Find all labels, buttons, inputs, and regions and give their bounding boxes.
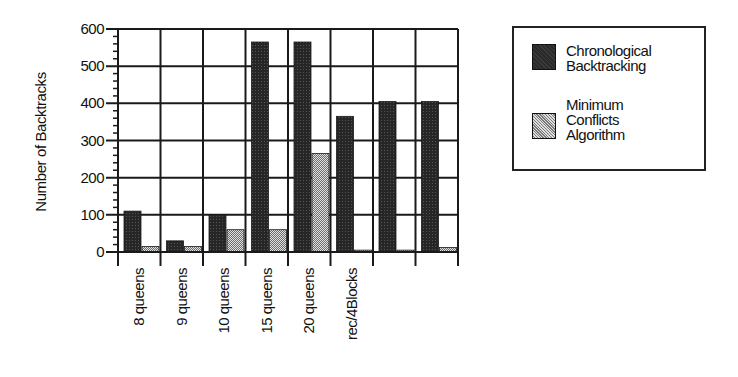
y-axis-label: Number of Backtracks: [32, 72, 49, 212]
y-tick-label: 500: [80, 57, 104, 74]
x-axis-tick-labels: 8 queens9 queens10 queens15 queens20 que…: [130, 268, 360, 340]
bars: [124, 42, 457, 252]
legend: Chronological Backtracking Minimum Confl…: [512, 26, 706, 171]
legend-item-chronological-backtracking: [532, 44, 556, 70]
legend-item-minimum-conflicts: [532, 113, 556, 139]
y-tick-label: 300: [80, 132, 104, 149]
bar-chronological-backtracking: [209, 215, 226, 252]
x-tick-label: 20 queens: [300, 268, 317, 334]
bar-chronological-backtracking: [167, 241, 184, 252]
y-tick-label: 200: [80, 169, 104, 186]
y-tick-label: 0: [96, 243, 104, 260]
bar-minimum-conflicts: [227, 230, 244, 252]
x-tick-label: 10 queens: [215, 268, 232, 334]
bar-minimum-conflicts: [312, 154, 329, 252]
bar-chronological-backtracking: [422, 101, 439, 252]
y-axis-tick-labels: 0100200300400500600: [80, 20, 104, 260]
bar-chronological-backtracking: [124, 211, 141, 252]
x-tick-label: 15 queens: [258, 268, 275, 334]
bar-chronological-backtracking: [379, 101, 396, 252]
bar-chronological-backtracking: [337, 116, 354, 252]
legend-label: Chronological Backtracking: [566, 43, 696, 73]
bar-chronological-backtracking: [294, 42, 311, 252]
legend-label: Minimum Conflicts Algorithm: [566, 97, 696, 142]
legend-swatch-dark: [532, 44, 556, 70]
x-tick-label: 8 queens: [130, 268, 147, 326]
bar-minimum-conflicts: [270, 230, 287, 252]
bar-chronological-backtracking: [252, 42, 269, 252]
legend-swatch-light: [532, 113, 556, 139]
y-tick-label: 600: [80, 20, 104, 37]
x-tick-label: rec/4Blocks: [343, 268, 360, 340]
x-tick-label: 9 queens: [173, 268, 190, 326]
y-tick-label: 100: [80, 206, 104, 223]
y-tick-label: 400: [80, 94, 104, 111]
